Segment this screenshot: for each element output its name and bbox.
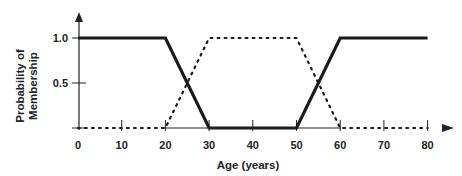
x-tick-label: 80 bbox=[421, 139, 433, 151]
membership-chart: 1.0 0.5 01020304050607080 Age (years) Pr… bbox=[0, 0, 462, 176]
dotted-series-line bbox=[78, 38, 428, 128]
x-tick-label: 60 bbox=[334, 139, 346, 151]
x-tick-label: 20 bbox=[159, 139, 171, 151]
x-axis-arrow-icon bbox=[442, 124, 454, 132]
y-axis-label-line1: Probability of bbox=[14, 49, 26, 123]
x-tick-label: 0 bbox=[75, 139, 81, 151]
y-tick-label-05: 0.5 bbox=[53, 77, 68, 89]
y-axis-arrow-icon bbox=[75, 12, 83, 22]
x-tick-label: 30 bbox=[203, 139, 215, 151]
y-axis-label-line2: Membership bbox=[27, 52, 39, 120]
x-axis-label: Age (years) bbox=[217, 159, 280, 171]
x-tick-label: 50 bbox=[290, 139, 302, 151]
y-tick-label-1: 1.0 bbox=[53, 32, 68, 44]
x-tick-label: 10 bbox=[116, 139, 128, 151]
x-tick-labels: 01020304050607080 bbox=[75, 139, 434, 151]
x-tick-label: 40 bbox=[247, 139, 259, 151]
solid-series-line bbox=[78, 38, 428, 128]
x-tick-label: 70 bbox=[378, 139, 390, 151]
